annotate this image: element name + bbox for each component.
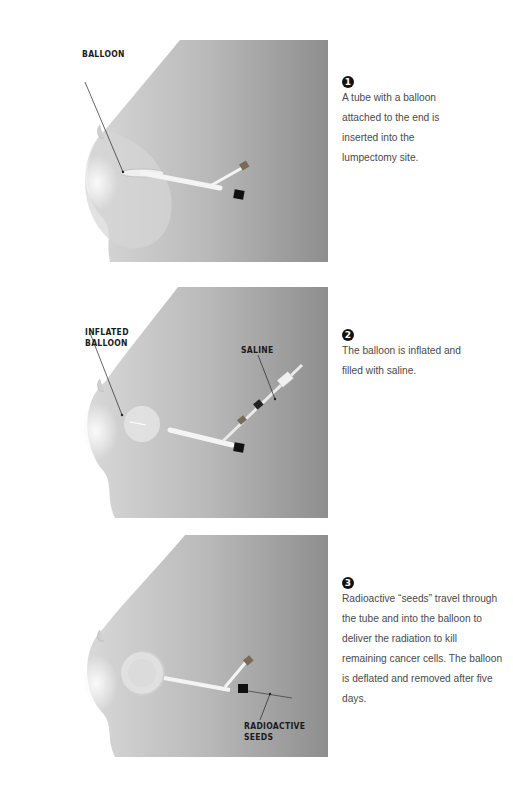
step-3: 3 Radioactive “seeds” travel through the…	[342, 577, 507, 709]
radioactive-label-line2: SEEDS	[244, 732, 305, 743]
illustration-panel-2	[60, 287, 328, 518]
step-number-3: 3	[342, 577, 354, 589]
inflated-balloon-label: INFLATED BALLOON	[85, 327, 129, 349]
inflated-label-line2: BALLOON	[85, 338, 129, 349]
step-3-text: Radioactive “seeds” travel through the t…	[342, 589, 504, 709]
step-number-2: 2	[342, 329, 354, 341]
step-2: 2 The balloon is inflated and filled wit…	[342, 329, 507, 381]
breast-illustration-1	[60, 40, 328, 262]
step-2-text: The balloon is inflated and filled with …	[342, 341, 482, 381]
balloon-label: BALLOON	[82, 49, 125, 60]
radioactive-seeds-label: RADIOACTIVE SEEDS	[244, 721, 305, 743]
step-number-1: 1	[342, 76, 354, 88]
illustration-panel-1	[60, 40, 328, 262]
step-1-text: A tube with a balloon attached to the en…	[342, 88, 460, 168]
step-1: 1 A tube with a balloon attached to the …	[342, 76, 507, 168]
inflated-label-line1: INFLATED	[85, 327, 129, 338]
saline-label: SALINE	[241, 345, 274, 356]
breast-illustration-2	[60, 287, 328, 518]
radioactive-label-line1: RADIOACTIVE	[244, 721, 305, 732]
